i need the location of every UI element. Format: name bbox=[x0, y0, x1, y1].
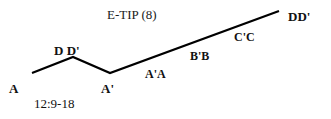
etip-diagram: E-TIP (8) A D D' A' A'A B'B C'C DD' 12:9… bbox=[0, 0, 331, 119]
node-label-a-prime: A' bbox=[101, 82, 114, 95]
node-label-dd-prime-end: DD' bbox=[288, 10, 310, 23]
segment-label-a-prime-a: A'A bbox=[145, 68, 166, 80]
figure-title: E-TIP (8) bbox=[107, 8, 157, 21]
segment-label-c-prime-c: C'C bbox=[234, 31, 255, 43]
node-label-a: A bbox=[9, 82, 18, 95]
segment-label-b-prime-b: B'B bbox=[190, 50, 209, 62]
node-label-dd-prime-peak: D D' bbox=[54, 44, 80, 57]
figure-caption: 12:9-18 bbox=[34, 97, 74, 110]
